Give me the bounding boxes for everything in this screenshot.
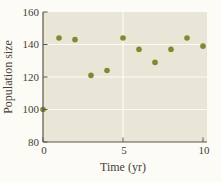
y-tick-label: 140	[23, 38, 40, 50]
y-tick-label: 100	[23, 103, 40, 115]
y-tick-label: 120	[23, 71, 40, 83]
data-point	[56, 35, 62, 41]
x-tick-label: 5	[121, 144, 127, 156]
y-tick-label: 80	[28, 136, 40, 148]
x-axis-title: Time (yr)	[100, 160, 146, 174]
population-growth-figure: 801001201401600510 Time (yr) Population …	[0, 0, 221, 182]
y-axis-title: Population size	[1, 40, 15, 114]
data-point	[88, 73, 94, 79]
x-tick-label: 10	[199, 144, 211, 156]
data-point	[104, 68, 110, 74]
population-scatter-chart: 801001201401600510 Time (yr) Population …	[0, 0, 221, 182]
data-point	[72, 37, 78, 43]
data-point	[120, 35, 126, 41]
data-point	[184, 35, 190, 41]
data-point	[200, 43, 206, 49]
data-point	[152, 60, 158, 66]
data-point	[136, 47, 142, 53]
y-tick-label: 160	[23, 6, 40, 18]
data-point	[168, 47, 174, 53]
x-tick-label: 0	[41, 144, 47, 156]
